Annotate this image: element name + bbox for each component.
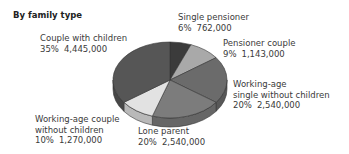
label-text: Single pensioner — [178, 12, 249, 23]
label-text: Lone parent — [138, 126, 205, 137]
label-value: 2,540,000 — [162, 137, 205, 147]
label-working-single: Working-age single without children 20%2… — [233, 79, 330, 111]
label-percent: 20% — [233, 100, 252, 110]
label-percent: 35% — [40, 44, 59, 54]
label-value: 2,540,000 — [257, 100, 300, 110]
label-value: 1,143,000 — [242, 49, 285, 59]
label-text: Working-age — [233, 79, 330, 90]
label-value: 4,445,000 — [64, 44, 107, 54]
label-percent: 10% — [35, 135, 54, 145]
label-text: single without children — [233, 90, 330, 101]
label-text: Working-age couple — [35, 114, 120, 125]
label-percent: 20% — [138, 137, 157, 147]
label-value: 1,270,000 — [59, 135, 102, 145]
label-single-pensioner: Single pensioner 6%762,000 — [178, 12, 249, 33]
label-text: Couple with children — [40, 33, 127, 44]
label-lone-parent: Lone parent 20%2,540,000 — [138, 126, 205, 147]
label-percent: 9% — [223, 49, 237, 59]
label-percent: 6% — [178, 23, 192, 33]
label-couple-with-children: Couple with children 35%4,445,000 — [40, 33, 127, 54]
label-text: Pensioner couple — [223, 38, 296, 49]
label-value: 762,000 — [197, 23, 232, 33]
label-working-couple: Working-age couple without children 10%1… — [35, 114, 120, 146]
label-text: without children — [35, 125, 120, 136]
label-pensioner-couple: Pensioner couple 9%1,143,000 — [223, 38, 296, 59]
